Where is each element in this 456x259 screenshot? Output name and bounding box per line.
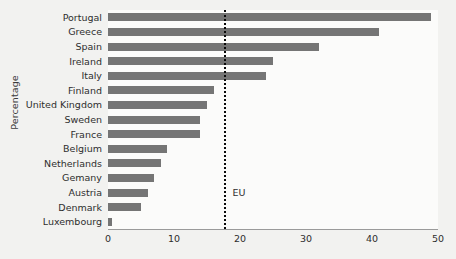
bar-row: Sweden — [0, 113, 456, 126]
category-label: Luxembourg — [0, 215, 102, 228]
bar-row: Greece — [0, 25, 456, 38]
category-label: Denmark — [0, 201, 102, 214]
bar — [108, 130, 200, 138]
category-label: France — [0, 128, 102, 141]
eu-reference-line-label: EU — [233, 187, 246, 198]
x-tick-label: 20 — [220, 233, 260, 244]
category-label: Finland — [0, 84, 102, 97]
bar — [108, 159, 161, 167]
bar-row: Gemany — [0, 171, 456, 184]
category-label: Ireland — [0, 55, 102, 68]
bar-row: Spain — [0, 40, 456, 53]
category-label: Italy — [0, 69, 102, 82]
bar — [108, 145, 167, 153]
category-label: United Kingdom — [0, 98, 102, 111]
x-axis-line — [108, 229, 438, 230]
eu-reference-line — [224, 10, 226, 229]
x-tick-label: 50 — [418, 233, 456, 244]
category-label: Sweden — [0, 113, 102, 126]
bar-row: Belgium — [0, 142, 456, 155]
bar — [108, 13, 431, 21]
bar — [108, 28, 379, 36]
bar — [108, 43, 319, 51]
bar-row: Austria — [0, 186, 456, 199]
category-label: Portugal — [0, 11, 102, 24]
x-tick-label: 10 — [154, 233, 194, 244]
bar-row: Ireland — [0, 55, 456, 68]
bar — [108, 86, 214, 94]
bar — [108, 218, 112, 226]
bar — [108, 57, 273, 65]
bar-row: Italy — [0, 69, 456, 82]
category-label: Greece — [0, 25, 102, 38]
x-tick-label: 30 — [286, 233, 326, 244]
x-tick-label: 40 — [352, 233, 392, 244]
category-label: Gemany — [0, 171, 102, 184]
bar-row: United Kingdom — [0, 98, 456, 111]
bar — [108, 72, 266, 80]
bar — [108, 189, 148, 197]
bar — [108, 203, 141, 211]
bar-row: Portugal — [0, 11, 456, 24]
bar-row: Denmark — [0, 201, 456, 214]
bar-chart: Percentage PortugalGreeceSpainIrelandIta… — [0, 0, 456, 259]
category-label: Spain — [0, 40, 102, 53]
bar-row: France — [0, 128, 456, 141]
category-label: Belgium — [0, 142, 102, 155]
bar — [108, 101, 207, 109]
bar-row: Luxembourg — [0, 215, 456, 228]
bar — [108, 174, 154, 182]
x-tick-label: 0 — [88, 233, 128, 244]
bar-row: Netherlands — [0, 157, 456, 170]
bar — [108, 116, 200, 124]
category-label: Austria — [0, 186, 102, 199]
category-label: Netherlands — [0, 157, 102, 170]
bar-row: Finland — [0, 84, 456, 97]
